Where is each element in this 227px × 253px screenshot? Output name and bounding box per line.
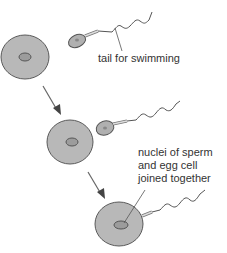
fertilisation-diagram — [0, 0, 227, 253]
arrow-down-2 — [88, 172, 105, 199]
nuclei-label-line-2: and egg cell — [138, 159, 197, 172]
sperm-stage-1 — [66, 12, 152, 51]
egg-cell-stage-2 — [47, 120, 93, 164]
sperm-stage-2 — [94, 101, 180, 138]
tail-label: tail for swimming — [98, 52, 180, 65]
egg-cell-stage-1 — [1, 35, 49, 79]
nuclei-label-line-1: nuclei of sperm — [138, 146, 213, 159]
egg-cell-stage-3 — [95, 190, 205, 246]
nuclei-label-line-3: joined together — [138, 172, 211, 185]
tail-pointer-line — [115, 28, 122, 51]
arrow-down-1 — [43, 86, 61, 115]
